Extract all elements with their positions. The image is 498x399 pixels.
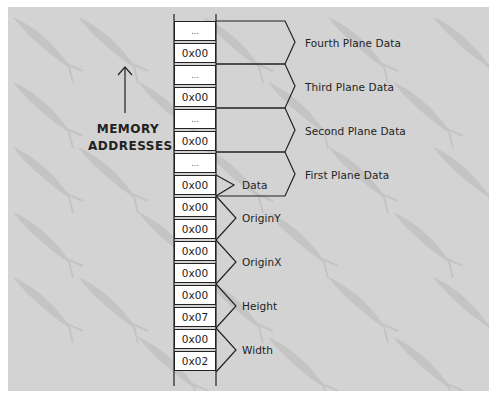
memory-cell: ... bbox=[174, 153, 216, 173]
memory-cell: 0x00 bbox=[174, 329, 216, 349]
memory-cell: 0x00 bbox=[174, 241, 216, 261]
label-second-plane-data: Second Plane Data bbox=[305, 125, 406, 137]
label-height: Height bbox=[242, 300, 277, 312]
brace-origin-x bbox=[216, 240, 236, 284]
memory-label-line1: MEMORY bbox=[88, 121, 168, 138]
brace-origin-y bbox=[216, 196, 236, 240]
brace-second-plane bbox=[216, 108, 295, 152]
label-width: Width bbox=[242, 344, 273, 356]
memory-label-line2: ADDRESSES bbox=[88, 138, 168, 155]
memory-cell: 0x00 bbox=[174, 219, 216, 239]
label-origin-y: OriginY bbox=[242, 212, 281, 224]
memory-cell: 0x00 bbox=[174, 131, 216, 151]
brace-third-plane bbox=[216, 64, 295, 108]
label-first-plane-data: First Plane Data bbox=[305, 169, 389, 181]
label-data: Data bbox=[242, 179, 267, 191]
memory-cell: 0x00 bbox=[174, 197, 216, 217]
memory-cell: ... bbox=[174, 109, 216, 129]
memory-addresses-label: MEMORY ADDRESSES bbox=[88, 121, 168, 155]
memory-cell: 0x00 bbox=[174, 263, 216, 283]
memory-cell: 0x00 bbox=[174, 43, 216, 63]
label-origin-x: OriginX bbox=[242, 256, 282, 268]
memory-cell: 0x07 bbox=[174, 307, 216, 327]
brace-width bbox=[216, 328, 236, 372]
memory-layout-lines bbox=[0, 0, 498, 399]
label-third-plane-data: Third Plane Data bbox=[305, 81, 394, 93]
brace-data bbox=[216, 175, 234, 196]
memory-cell: ... bbox=[174, 65, 216, 85]
memory-cell: 0x00 bbox=[174, 175, 216, 195]
memory-cell: 0x00 bbox=[174, 285, 216, 305]
brace-fourth-plane bbox=[216, 21, 295, 64]
memory-cell: 0x00 bbox=[174, 87, 216, 107]
memory-cell: ... bbox=[174, 21, 216, 41]
label-fourth-plane-data: Fourth Plane Data bbox=[305, 37, 401, 49]
brace-height bbox=[216, 284, 236, 328]
memory-cell: 0x02 bbox=[174, 351, 216, 371]
